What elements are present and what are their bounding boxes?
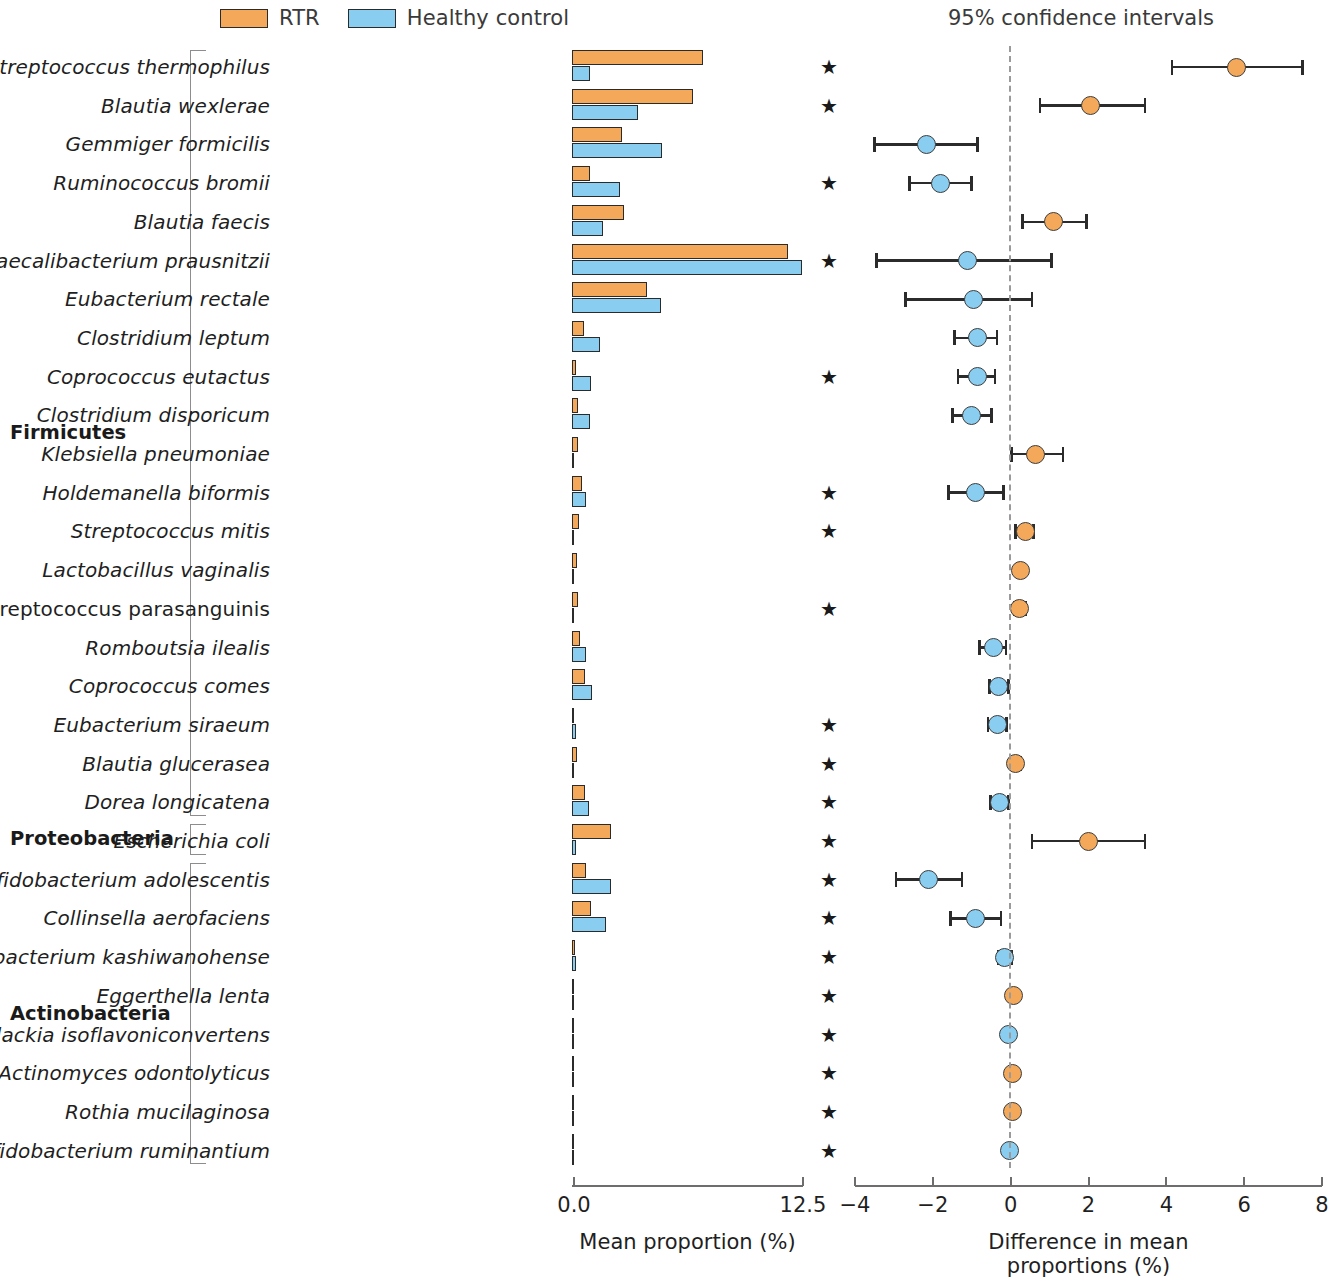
axis-tick-label: 0.0 xyxy=(557,1193,590,1217)
species-label: Collinsella aerofaciens xyxy=(0,906,270,930)
significance-star-icon: ★ xyxy=(820,754,838,774)
bar-rtr xyxy=(572,205,624,220)
axis-tick-label: −4 xyxy=(840,1193,871,1217)
significance-star-icon: ★ xyxy=(820,96,838,116)
bar-healthy-control xyxy=(572,298,661,313)
ci-cap-upper xyxy=(1002,485,1005,500)
bar-rtr xyxy=(572,437,578,452)
significance-star-icon: ★ xyxy=(820,173,838,193)
bar-healthy-control xyxy=(572,647,586,662)
chart-row: Streptococcus parasanguinis★ xyxy=(0,588,1335,630)
bar-rtr xyxy=(572,89,693,104)
significance-star-icon: ★ xyxy=(820,1063,838,1083)
bar-healthy-control xyxy=(572,1150,574,1165)
chart-row: Bifidobacterium kashiwanohense★ xyxy=(0,936,1335,978)
bar-rtr xyxy=(572,282,647,297)
ci-cap-lower xyxy=(1039,98,1042,113)
ci-cap-lower xyxy=(895,872,898,887)
significance-star-icon: ★ xyxy=(820,483,838,503)
species-label: Faecalibacterium prausnitzii xyxy=(0,249,270,273)
significance-star-icon: ★ xyxy=(820,986,838,1006)
bar-healthy-control xyxy=(572,376,591,391)
bar-healthy-control xyxy=(572,608,574,623)
axis-line xyxy=(572,1185,803,1187)
bar-healthy-control xyxy=(572,879,611,894)
chart-row: Romboutsia ilealis xyxy=(0,627,1335,669)
ci-cap-lower xyxy=(978,640,981,655)
bar-healthy-control xyxy=(572,66,590,81)
ci-point xyxy=(919,870,938,889)
ci-point xyxy=(990,793,1009,812)
ci-point xyxy=(1044,212,1063,231)
species-label: Gemmiger formicilis xyxy=(0,132,270,156)
ci-cap-upper xyxy=(994,369,997,384)
species-label: Eubacterium rectale xyxy=(0,287,270,311)
bar-rtr xyxy=(572,166,590,181)
significance-star-icon: ★ xyxy=(820,792,838,812)
species-label: Romboutsia ilealis xyxy=(0,636,270,660)
bar-rtr xyxy=(572,360,576,375)
bar-rtr xyxy=(572,863,586,878)
chart-row: Ruminococcus bromii★ xyxy=(0,162,1335,204)
chart-row: Eubacterium rectale xyxy=(0,278,1335,320)
chart-row: Escherichia coli★ xyxy=(0,820,1335,862)
ci-cap-upper xyxy=(1050,253,1053,268)
axis-title: Difference in mean proportions (%) xyxy=(965,1230,1212,1278)
bar-healthy-control xyxy=(572,453,574,468)
bar-rtr xyxy=(572,592,578,607)
species-label: Klebsiella pneumoniae xyxy=(0,442,270,466)
bar-healthy-control xyxy=(572,143,662,158)
bar-rtr xyxy=(572,785,585,800)
chart-row: Collinsella aerofaciens★ xyxy=(0,897,1335,939)
bar-rtr xyxy=(572,514,579,529)
bar-healthy-control xyxy=(572,337,600,352)
significance-star-icon: ★ xyxy=(820,57,838,77)
axis-title: Mean proportion (%) xyxy=(579,1230,795,1254)
chart-row: Streptococcus mitis★ xyxy=(0,510,1335,552)
species-label: Bifidobacterium ruminantium xyxy=(0,1139,270,1163)
chart-row: Lactobacillus vaginalis xyxy=(0,549,1335,591)
chart-row: Bifidobacterium adolescentis★ xyxy=(0,859,1335,901)
ci-point xyxy=(989,677,1008,696)
ci-cap-upper xyxy=(1301,60,1304,75)
species-label: Escherichia coli xyxy=(0,829,270,853)
bar-healthy-control xyxy=(572,492,586,507)
ci-cap-upper xyxy=(1005,640,1008,655)
species-label: Coprococcus comes xyxy=(0,674,270,698)
bar-healthy-control xyxy=(572,414,590,429)
ci-cap-upper xyxy=(996,330,999,345)
axis-tick xyxy=(1243,1177,1245,1186)
species-label: Holdemanella biformis xyxy=(0,481,270,505)
axis-tick-label: −2 xyxy=(917,1193,948,1217)
axis-tick xyxy=(573,1177,575,1186)
bar-healthy-control xyxy=(572,260,802,275)
ci-cap-lower xyxy=(873,137,876,152)
species-label: Blautia wexlerae xyxy=(0,94,270,118)
ci-point xyxy=(1079,832,1098,851)
bar-rtr xyxy=(572,553,577,568)
species-label: Coprococcus eutactus xyxy=(0,365,270,389)
ci-point xyxy=(966,909,985,928)
ci-cap-upper xyxy=(970,176,973,191)
chart-row: Blautia glucerasea★ xyxy=(0,743,1335,785)
ci-point xyxy=(1026,445,1045,464)
chart-row: Eubacterium siraeum★ xyxy=(0,704,1335,746)
bar-rtr xyxy=(572,1056,574,1071)
bar-healthy-control xyxy=(572,840,576,855)
bar-healthy-control xyxy=(572,724,576,739)
ci-cap-upper xyxy=(1031,292,1034,307)
axis-tick-label: 12.5 xyxy=(780,1193,827,1217)
ci-cap-lower xyxy=(908,176,911,191)
bar-rtr xyxy=(572,1134,574,1149)
significance-star-icon: ★ xyxy=(820,908,838,928)
bar-rtr xyxy=(572,244,788,259)
ci-point xyxy=(988,715,1007,734)
chart-row: Holdemanella biformis★ xyxy=(0,472,1335,514)
axis-tick xyxy=(854,1177,856,1186)
axis-tick xyxy=(932,1177,934,1186)
species-label: Actinomyces odontolyticus xyxy=(0,1061,270,1085)
bar-healthy-control xyxy=(572,1072,574,1087)
ci-cap-lower xyxy=(951,408,954,423)
bar-rtr xyxy=(572,321,584,336)
ci-cap-upper xyxy=(1000,911,1003,926)
